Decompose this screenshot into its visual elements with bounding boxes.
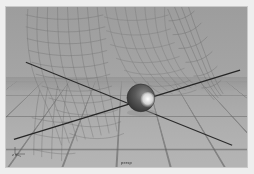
wireframe-surface-center [104,7,196,98]
viewport-status-label: persp [120,160,133,165]
application-window: z x persp [0,0,254,174]
axis-gizmo-label: z x [12,152,17,157]
wireframe-surface-left [26,7,124,145]
scene-overlay [6,7,247,167]
axis-lines [14,62,240,145]
perspective-viewport[interactable]: z x persp [5,6,248,168]
sphere-object[interactable] [127,84,157,116]
sphere-specular-highlight [140,92,155,108]
wireframe-surface-right [168,7,224,100]
